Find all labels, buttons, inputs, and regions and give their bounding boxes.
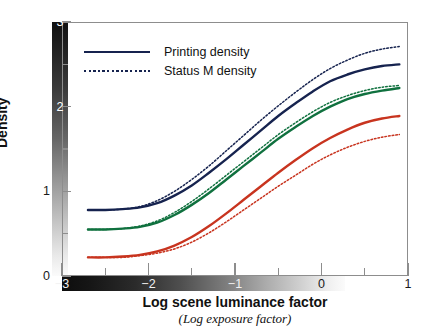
curve-red-dotted bbox=[88, 135, 399, 258]
legend-item-printing-density: Printing density bbox=[84, 42, 256, 61]
legend-swatch-solid-icon bbox=[84, 46, 150, 58]
curve-red-solid bbox=[88, 116, 399, 257]
chart-figure: 0123 −3−2−101 Printing density Status M … bbox=[0, 0, 430, 332]
legend-item-status-m-density: Status M density bbox=[84, 61, 256, 80]
legend-label-printing-density: Printing density bbox=[164, 45, 249, 59]
legend: Printing density Status M density bbox=[84, 42, 256, 80]
x-axis-subtitle: (Log exposure factor) bbox=[62, 311, 408, 327]
x-axis-title: Log scene luminance factor bbox=[62, 294, 408, 310]
legend-label-status-m-density: Status M density bbox=[164, 64, 256, 78]
curve-blue-solid bbox=[88, 64, 399, 210]
y-axis-title: Density bbox=[0, 97, 10, 148]
legend-swatch-dotted-icon bbox=[84, 65, 150, 77]
